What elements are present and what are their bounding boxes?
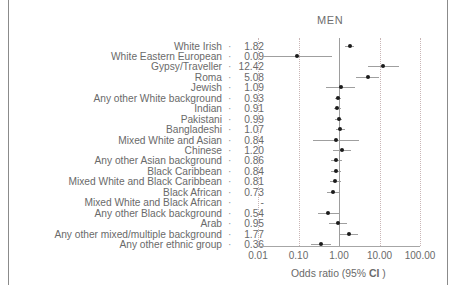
row-label: Chinese	[185, 145, 222, 156]
row-separator-dot: ·	[228, 135, 231, 146]
row-odds-ratio-value: 0.99	[234, 114, 264, 125]
row-odds-ratio-value: 0.73	[234, 187, 264, 198]
row-separator-dot: ·	[228, 218, 231, 229]
row-odds-ratio-value: 1.77	[234, 229, 264, 240]
row-label: White Eastern European	[111, 51, 222, 62]
row-label: Mixed White and Asian	[118, 135, 222, 146]
row-odds-ratio-value: 0.84	[234, 135, 264, 146]
row-separator-dot: ·	[228, 41, 231, 52]
row-label: Jewish	[191, 82, 222, 93]
row-odds-ratio-value: 5.08	[234, 72, 264, 83]
x-axis-title: Odds ratio (95% CI )	[291, 268, 386, 279]
row-separator-dot: ·	[228, 72, 231, 83]
row-separator-dot: ·	[228, 208, 231, 219]
row-odds-ratio-value: 0.93	[234, 93, 264, 104]
table-row: Black Caribbean·0.84	[0, 166, 464, 177]
table-row: Roma·5.08	[0, 72, 464, 83]
table-row: Any other Black background·0.54	[0, 208, 464, 219]
table-row: Mixed White and Black African·-	[0, 197, 464, 208]
row-odds-ratio-value: 0.84	[234, 166, 264, 177]
row-odds-ratio-value: 0.81	[234, 176, 264, 187]
row-separator-dot: ·	[228, 82, 231, 93]
table-row: Arab·0.95	[0, 218, 464, 229]
row-odds-ratio-value: 1.09	[234, 82, 264, 93]
table-row: Any other Asian background·0.86	[0, 155, 464, 166]
row-separator-dot: ·	[228, 197, 231, 208]
table-row: Mixed White and Asian·0.84	[0, 135, 464, 146]
row-odds-ratio-value: -	[234, 197, 264, 208]
row-separator-dot: ·	[228, 124, 231, 135]
row-label: Mixed White and Black African	[84, 197, 222, 208]
row-separator-dot: ·	[228, 239, 231, 250]
row-odds-ratio-value: 1.82	[234, 41, 264, 52]
forest-plot-figure: MEN White Irish·1.82White Eastern Europe…	[0, 0, 464, 285]
table-row: Chinese·1.20	[0, 145, 464, 156]
row-label: Pakistani	[181, 114, 222, 125]
row-odds-ratio-value: 1.20	[234, 145, 264, 156]
row-odds-ratio-value: 0.95	[234, 218, 264, 229]
row-label: Any other ethnic group	[119, 239, 222, 250]
row-label: Any other mixed/multiple background	[54, 229, 222, 240]
row-separator-dot: ·	[228, 61, 231, 72]
x-axis-title-suffix: )	[379, 268, 385, 279]
row-odds-ratio-value: 0.09	[234, 51, 264, 62]
table-row: Gypsy/Traveller·12.42	[0, 61, 464, 72]
row-label: Arab	[200, 218, 222, 229]
row-odds-ratio-value: 12.42	[234, 61, 264, 72]
row-separator-dot: ·	[228, 114, 231, 125]
row-label: Black African	[163, 187, 222, 198]
row-separator-dot: ·	[228, 176, 231, 187]
table-row: Pakistani·0.99	[0, 114, 464, 125]
table-row: Any other ethnic group·0.36	[0, 239, 464, 250]
row-separator-dot: ·	[228, 103, 231, 114]
table-row: Any other White background·0.93	[0, 93, 464, 104]
table-row: White Irish·1.82	[0, 41, 464, 52]
row-label: Bangladeshi	[166, 124, 222, 135]
table-row: Any other mixed/multiple background·1.77	[0, 229, 464, 240]
forest-plot-row-list: White Irish·1.82White Eastern European·0…	[0, 0, 464, 285]
row-separator-dot: ·	[228, 166, 231, 177]
table-row: Black African·0.73	[0, 187, 464, 198]
x-axis-title-prefix: Odds ratio (95%	[291, 268, 369, 279]
row-label: Indian	[194, 103, 222, 114]
row-label: Black Caribbean	[147, 166, 222, 177]
row-separator-dot: ·	[228, 145, 231, 156]
row-label: Any other White background	[93, 93, 222, 104]
row-odds-ratio-value: 1.07	[234, 124, 264, 135]
table-row: Indian·0.91	[0, 103, 464, 114]
row-separator-dot: ·	[228, 229, 231, 240]
table-row: Jewish·1.09	[0, 82, 464, 93]
row-odds-ratio-value: 0.54	[234, 208, 264, 219]
x-tick-label: 100.00	[395, 250, 445, 261]
table-row: White Eastern European·0.09	[0, 51, 464, 62]
row-odds-ratio-value: 0.86	[234, 155, 264, 166]
table-row: Mixed White and Black Caribbean·0.81	[0, 176, 464, 187]
row-label: Gypsy/Traveller	[151, 61, 222, 72]
row-separator-dot: ·	[228, 187, 231, 198]
row-separator-dot: ·	[228, 93, 231, 104]
row-odds-ratio-value: 0.91	[234, 103, 264, 114]
row-label: Any other Black background	[95, 208, 222, 219]
x-axis-title-ci: CI	[369, 268, 379, 279]
row-label: Any other Asian background	[95, 155, 222, 166]
table-row: Bangladeshi·1.07	[0, 124, 464, 135]
row-label: White Irish	[174, 41, 222, 52]
row-separator-dot: ·	[228, 155, 231, 166]
row-label: Mixed White and Black Caribbean	[69, 176, 222, 187]
row-separator-dot: ·	[228, 51, 231, 62]
row-odds-ratio-value: 0.36	[234, 239, 264, 250]
row-label: Roma	[195, 72, 222, 83]
